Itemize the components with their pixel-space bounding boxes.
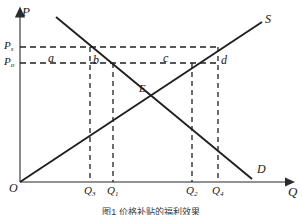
origin-label: O — [9, 182, 18, 194]
figure-caption: 图1 价格补贴的福利效果 — [0, 205, 302, 215]
supply-curve-label: S — [265, 13, 271, 25]
quantity-label-q1: Q1 — [107, 185, 118, 198]
price-label-po-sub: o — [11, 61, 15, 69]
supply-demand-figure: P Q O Ps Po Q3 Q1 Q2 Q4 S D E a b c d 图1… — [0, 0, 302, 215]
area-label-a: a — [48, 52, 54, 64]
quantity-label-q4-base: Q — [212, 184, 220, 196]
y-axis-label: P — [22, 5, 30, 18]
area-label-b: b — [93, 54, 99, 66]
demand-curve — [56, 17, 252, 179]
quantity-label-q4: Q4 — [212, 185, 223, 198]
demand-curve-label: D — [257, 163, 266, 175]
quantity-label-q2: Q2 — [186, 185, 197, 198]
price-label-ps-base: P — [4, 39, 11, 51]
x-axis-label: Q — [288, 185, 297, 198]
quantity-label-q2-base: Q — [186, 184, 194, 196]
quantity-label-q1-sub: 1 — [115, 190, 119, 198]
quantity-label-q3-sub: 3 — [92, 190, 96, 198]
diagram-canvas — [0, 0, 302, 215]
price-label-po-base: P — [4, 55, 11, 67]
quantity-label-q4-sub: 4 — [220, 190, 224, 198]
price-label-ps: Ps — [4, 40, 13, 53]
quantity-label-q3-base: Q — [84, 184, 92, 196]
equilibrium-point-label: E — [139, 83, 146, 94]
price-label-ps-sub: s — [11, 45, 14, 53]
area-label-d: d — [221, 54, 227, 66]
quantity-label-q3: Q3 — [84, 185, 95, 198]
quantity-label-q1-base: Q — [107, 184, 115, 196]
area-label-c: c — [163, 52, 168, 64]
quantity-label-q2-sub: 2 — [194, 190, 198, 198]
price-label-po: Po — [4, 56, 14, 69]
